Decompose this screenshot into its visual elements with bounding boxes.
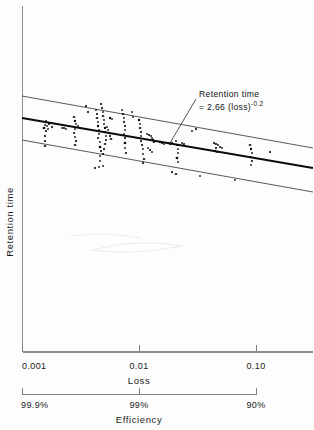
data-point [74,120,76,122]
data-point [65,128,67,130]
data-point [148,134,150,136]
data-point [85,105,87,107]
data-point [146,133,148,135]
efficiency-tick-label-2: 90% [246,400,265,410]
upper-bound-line [22,96,313,148]
data-point [176,157,178,159]
data-point [269,151,271,153]
data-point [124,147,126,149]
annotation-line-1: Retention time [199,89,259,99]
data-point [102,153,104,155]
data-point [139,127,141,129]
data-point [251,152,253,154]
data-point [45,120,47,122]
data-point [104,143,106,145]
data-point [98,166,100,168]
data-point [97,125,99,127]
data-point [63,127,65,129]
data-point [125,152,127,154]
data-point [96,117,98,119]
data-point [214,150,216,152]
data-point [104,131,106,133]
data-point [142,162,144,164]
data-point [99,155,101,157]
data-point [44,135,46,137]
data-point [217,144,219,146]
data-point [213,142,215,144]
data-point [250,156,252,158]
data-point [122,113,124,115]
data-point [177,161,179,163]
data-point [159,141,161,143]
data-point [183,143,185,145]
x-axis-title-efficiency: Efficiency [116,414,162,425]
data-point [121,109,123,111]
data-point [45,130,47,132]
annotation-leader-line [170,99,196,143]
data-point [75,123,77,125]
data-point [139,123,141,125]
data-point [61,127,63,129]
data-point [99,160,101,162]
data-point [138,119,140,121]
data-point [102,111,104,113]
data-point [169,143,171,145]
data-point [215,147,217,149]
data-point [95,109,97,111]
data-point [140,131,142,133]
data-point [171,171,173,173]
data-point [199,175,201,177]
data-point [44,140,46,142]
data-point [149,149,151,151]
data-point [96,113,98,115]
data-point [48,123,50,125]
annotation-equation-base: = 2.66 (loss) [199,102,251,112]
data-point [105,139,107,141]
scan-artifact [70,234,182,252]
data-point [147,147,149,149]
data-point [132,116,134,118]
axis-frame [23,6,314,352]
data-point [98,133,100,135]
data-point [124,137,126,139]
data-point [124,142,126,144]
efficiency-axis [23,388,257,395]
data-point [103,123,105,125]
y-axis-title: Retention time [4,187,15,257]
data-point [74,144,76,146]
data-point [97,137,99,139]
data-point [103,119,105,121]
data-point [108,132,110,134]
data-point [77,125,79,127]
data-point [181,142,183,144]
loss-tick-label-0: 0.001 [22,361,47,371]
efficiency-tick-label-0: 99.9% [21,400,49,410]
data-point [74,128,76,130]
data-point [97,121,99,123]
data-point [140,140,142,142]
data-point [111,118,113,120]
data-point [151,151,153,153]
data-point [104,127,106,129]
loss-tick-label-1: 0.01 [129,361,148,371]
data-point [99,146,101,148]
data-point [141,144,143,146]
data-point [250,164,252,166]
data-point [234,179,236,181]
data-point [98,129,100,131]
data-point [191,130,193,132]
data-point [73,132,75,134]
data-point [177,148,179,150]
data-point [219,146,221,148]
data-point [163,143,165,145]
data-point [152,139,154,141]
data-point [79,127,81,129]
data-point [143,158,145,160]
data-point [175,173,177,175]
data-point [140,135,142,137]
data-point [195,128,197,130]
data-point [46,125,48,127]
data-point [51,126,53,128]
data-point [74,136,76,138]
data-point [100,103,102,105]
